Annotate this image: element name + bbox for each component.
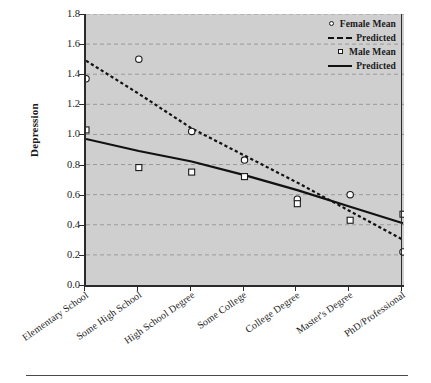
male-mean-marker: [86, 127, 89, 133]
male-mean-marker: [136, 165, 142, 171]
legend-key: [319, 46, 345, 58]
y-tick-mark: [79, 104, 84, 105]
series-markers: [86, 56, 404, 255]
female-mean-marker: [86, 76, 89, 82]
y-axis-tick-labels: 0.00.20.40.60.81.01.21.41.61.8: [52, 0, 80, 383]
y-tick-label: 0.2: [54, 250, 80, 260]
legend-item: Male Mean: [296, 45, 396, 59]
chart-legend: Female MeanPredictedMale MeanPredicted: [296, 17, 396, 73]
y-tick-mark: [79, 195, 84, 196]
female-mean-marker: [188, 128, 194, 134]
legend-item: Predicted: [296, 31, 396, 45]
y-tick-mark: [79, 74, 84, 75]
male-mean-marker: [294, 201, 300, 207]
y-tick-label: 0.4: [54, 220, 80, 230]
plot-right-border: [401, 14, 402, 287]
y-tick-label: 1.2: [54, 99, 80, 109]
series-lines: [86, 61, 403, 240]
y-tick-mark: [79, 255, 84, 256]
female-mean-marker: [347, 191, 353, 197]
square-marker-icon: [338, 49, 343, 54]
y-tick-label: 0.6: [54, 190, 80, 200]
y-tick-label: 1.0: [54, 129, 80, 139]
x-tick-label: College Degree: [243, 289, 302, 335]
y-tick-mark: [79, 165, 84, 166]
y-tick-mark: [79, 44, 84, 45]
footer-divider: [26, 375, 408, 376]
y-axis-title: Depression: [28, 70, 40, 190]
chart-figure: Depression 0.00.20.40.60.81.01.21.41.61.…: [0, 0, 431, 383]
solid-line-icon: [328, 65, 352, 67]
y-tick-label: 0.8: [54, 160, 80, 170]
male-mean-marker: [242, 174, 248, 180]
legend-label: Male Mean: [349, 46, 396, 58]
legend-label: Predicted: [356, 60, 396, 72]
y-tick-mark: [79, 134, 84, 135]
male-mean-marker: [347, 217, 353, 223]
legend-label: Predicted: [356, 32, 396, 44]
y-tick-label: 1.8: [54, 9, 80, 19]
legend-key: [326, 60, 352, 72]
legend-key: [310, 18, 336, 30]
y-tick-mark: [79, 225, 84, 226]
legend-item: Female Mean: [296, 17, 396, 31]
legend-label: Female Mean: [340, 18, 396, 30]
male-predicted-line: [86, 139, 403, 223]
x-tick-label: Some College: [195, 289, 248, 331]
female-mean-marker: [241, 157, 247, 163]
y-tick-label: 1.6: [54, 39, 80, 49]
legend-item: Predicted: [296, 59, 396, 73]
male-mean-marker: [189, 169, 195, 175]
female-mean-marker: [136, 56, 142, 62]
y-tick-label: 0.0: [54, 280, 80, 290]
legend-key: [326, 32, 352, 44]
y-tick-mark: [79, 14, 84, 15]
y-tick-label: 1.4: [54, 69, 80, 79]
dashed-line-icon: [328, 37, 352, 39]
circle-marker-icon: [329, 21, 334, 26]
